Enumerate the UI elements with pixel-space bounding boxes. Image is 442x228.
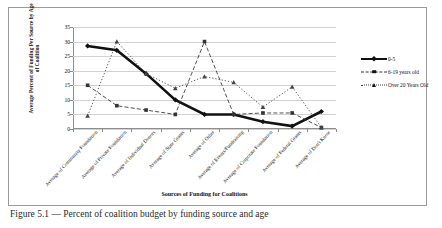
x-tick-label: Average of Community Foundation: [43, 129, 98, 187]
legend-marker-diamond-icon: [371, 55, 377, 61]
series-marker: [85, 43, 90, 48]
x-tick-label: Average of Corporate Foundation: [221, 129, 273, 184]
series-marker: [173, 113, 177, 117]
series-marker: [290, 111, 294, 115]
chart-frame: Average Percent of Funding Per Source by…: [8, 7, 427, 206]
series-marker: [202, 74, 207, 78]
legend-marker-triangle-icon: [372, 83, 376, 87]
plot-area: [73, 27, 336, 129]
series-marker: [260, 119, 265, 124]
series-marker: [85, 114, 90, 118]
legend-label: Over 20 Years Old: [387, 82, 428, 88]
series-marker: [173, 86, 178, 90]
legend-item[interactable]: Over 20 Years Old: [361, 78, 441, 91]
legend-item[interactable]: 6-19 years old: [361, 65, 441, 78]
legend-swatch: [361, 53, 387, 64]
x-axis-tick-labels: Average of Community FoundationAverage o…: [73, 129, 363, 191]
series-marker: [115, 39, 120, 43]
series-marker: [115, 104, 119, 108]
figure-container: Average Percent of Funding Per Source by…: [0, 0, 442, 228]
y-axis-title: Average Percent of Funding Per Source by…: [28, 0, 41, 116]
legend-swatch: [361, 79, 387, 90]
chart-legend: 0-56-19 years oldOver 20 Years Old: [361, 52, 441, 91]
figure-caption: Figure 5.1 — Percent of coalition budget…: [10, 209, 440, 220]
series-marker: [290, 84, 295, 88]
legend-item[interactable]: 0-5: [361, 52, 441, 65]
legend-label: 6-19 years old: [387, 69, 419, 75]
x-tick-label: Average of Other: [186, 129, 215, 159]
legend-swatch: [361, 66, 387, 77]
series-marker: [86, 83, 90, 87]
series-marker: [203, 40, 207, 44]
legend-label: 0-5: [387, 56, 395, 62]
y-axis-tick-labels: 05101520253035: [53, 27, 70, 129]
x-axis-title: Sources of Funding for Coalitions: [73, 191, 336, 197]
series-marker: [232, 113, 236, 117]
legend-marker-square-icon: [372, 70, 376, 74]
series-marker: [261, 111, 265, 115]
series-lines: [73, 27, 336, 129]
series-marker: [144, 108, 148, 112]
